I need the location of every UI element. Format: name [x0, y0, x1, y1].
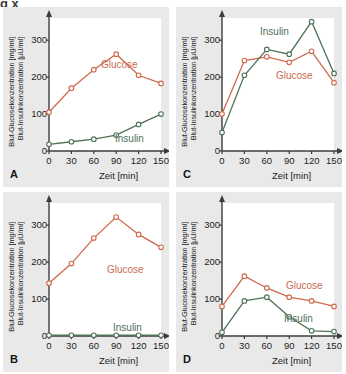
data-point-glucose: [332, 80, 337, 85]
series-line-insulin: [49, 114, 161, 144]
data-point-insulin: [114, 333, 119, 338]
data-point-glucose: [136, 232, 141, 237]
data-point-glucose: [332, 304, 337, 309]
data-point-insulin: [287, 52, 292, 57]
data-point-glucose: [92, 236, 97, 241]
data-point-glucose: [309, 299, 314, 304]
x-axis-arrow: [164, 333, 169, 339]
data-point-glucose: [47, 281, 52, 286]
data-point-insulin: [159, 333, 164, 338]
data-point-insulin: [332, 329, 337, 334]
chart-svg: [176, 7, 342, 187]
chart-panel-d: Blut-Glucosekonzentration [mg/ml]Blut-In…: [176, 192, 342, 372]
data-point-insulin: [92, 333, 97, 338]
series-label-glucose: Glucose: [286, 280, 323, 291]
data-point-insulin: [92, 137, 97, 142]
chart-panel-a: Blut-Glucosekonzentration [mg/ml]Blut-In…: [3, 7, 169, 187]
data-point-glucose: [136, 73, 141, 78]
data-point-insulin: [332, 71, 337, 76]
data-point-glucose: [159, 245, 164, 250]
data-point-insulin: [309, 329, 314, 334]
data-point-glucose: [265, 54, 270, 59]
data-point-glucose: [220, 304, 225, 309]
data-point-glucose: [114, 215, 119, 220]
data-point-insulin: [265, 47, 270, 52]
y-axis-arrow: [46, 10, 52, 17]
series-label-insulin: Insulin: [115, 133, 144, 144]
data-point-insulin: [136, 122, 141, 127]
series-line-glucose: [49, 217, 161, 283]
series-label-glucose: Glucose: [107, 264, 144, 275]
data-point-insulin: [69, 139, 74, 144]
x-axis-arrow: [337, 333, 342, 339]
data-point-insulin: [136, 333, 141, 338]
data-point-glucose: [220, 112, 225, 117]
data-point-insulin: [47, 333, 52, 338]
figure-container: g x Blut-Glucosekonzentration [mg/ml]Blu…: [0, 0, 346, 374]
chart-panel-c: Blut-Glucosekonzentration [mg/ml]Blut-In…: [176, 7, 342, 187]
data-point-glucose: [114, 52, 119, 57]
data-point-glucose: [159, 81, 164, 86]
data-point-glucose: [69, 86, 74, 91]
series-label-insulin: Insulin: [284, 313, 313, 324]
data-point-glucose: [47, 110, 52, 115]
chart-svg: [3, 192, 169, 372]
chart-svg: [3, 7, 169, 187]
data-point-insulin: [242, 299, 247, 304]
chart-panel-b: Blut-Glucosekonzentration [mg/ml]Blut-In…: [3, 192, 169, 372]
data-point-glucose: [92, 67, 97, 72]
data-point-glucose: [287, 60, 292, 65]
y-axis-arrow: [219, 10, 225, 17]
cut-off-header-text: g x: [0, 0, 346, 7]
data-point-insulin: [265, 295, 270, 300]
data-point-insulin: [159, 112, 164, 117]
series-label-insulin: Insulin: [260, 26, 289, 37]
data-point-insulin: [309, 19, 314, 24]
y-axis-arrow: [219, 195, 225, 202]
data-point-glucose: [287, 295, 292, 300]
y-axis-arrow: [46, 195, 52, 202]
series-label-glucose: Glucose: [276, 70, 313, 81]
data-point-glucose: [242, 274, 247, 279]
data-point-insulin: [220, 130, 225, 135]
data-point-insulin: [69, 333, 74, 338]
series-label-glucose: Glucose: [101, 59, 138, 70]
data-point-glucose: [265, 286, 270, 291]
data-point-insulin: [47, 142, 52, 147]
data-point-glucose: [242, 58, 247, 63]
data-point-insulin: [242, 73, 247, 78]
data-point-glucose: [309, 49, 314, 54]
series-line-glucose: [222, 51, 334, 114]
x-axis-arrow: [337, 148, 342, 154]
x-axis-arrow: [164, 148, 169, 154]
data-point-glucose: [69, 261, 74, 266]
data-point-insulin: [220, 330, 225, 335]
series-label-insulin: Insulin: [113, 322, 142, 333]
